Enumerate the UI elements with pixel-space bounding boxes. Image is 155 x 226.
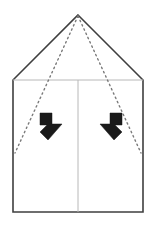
diagram-canvas: Origami fold step: pentagon shaped paper…: [0, 0, 155, 226]
folding-diagram: Origami fold step: pentagon shaped paper…: [0, 0, 155, 226]
